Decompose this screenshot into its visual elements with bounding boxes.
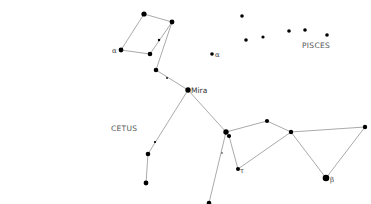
star-s3 bbox=[158, 39, 160, 41]
star-alpha-cetus bbox=[119, 48, 124, 53]
star-s2 bbox=[170, 20, 175, 25]
star-alpha-pisces bbox=[210, 52, 214, 56]
constellation-line bbox=[209, 132, 226, 203]
star-s9 bbox=[154, 141, 156, 143]
star-s6 bbox=[154, 68, 159, 73]
star-beta bbox=[323, 175, 330, 182]
constellation-line bbox=[326, 127, 365, 178]
star-s17 bbox=[265, 119, 269, 123]
constellation-line bbox=[291, 127, 365, 132]
constellation-line bbox=[238, 132, 291, 169]
star-s11 bbox=[144, 181, 149, 186]
mira-label: Mira bbox=[191, 86, 207, 95]
constellation-line bbox=[226, 121, 267, 132]
star-s19 bbox=[363, 125, 367, 129]
constellation-line bbox=[150, 22, 172, 54]
star-p2 bbox=[244, 38, 248, 42]
star-s18 bbox=[289, 130, 293, 134]
constellation-line bbox=[144, 14, 172, 22]
star-p3 bbox=[261, 35, 264, 38]
star-s1 bbox=[141, 11, 146, 16]
constellation-line bbox=[188, 90, 226, 132]
constellation-line bbox=[156, 22, 172, 70]
star-s10 bbox=[146, 152, 151, 157]
pisces-label: PISCES bbox=[302, 41, 330, 50]
star-s5 bbox=[148, 52, 153, 57]
star-s16 bbox=[207, 201, 212, 204]
tau-label: τ bbox=[240, 167, 244, 175]
star-s7 bbox=[166, 77, 168, 79]
constellation-line bbox=[148, 90, 188, 154]
constellation-line bbox=[291, 132, 326, 178]
star-p1 bbox=[240, 14, 244, 18]
alpha-cetus-label: α bbox=[112, 47, 117, 55]
star-s14 bbox=[221, 152, 222, 153]
alpha-pisces-label: α bbox=[215, 51, 220, 59]
cetus-label: CETUS bbox=[111, 124, 137, 133]
star-s12 bbox=[223, 129, 228, 134]
constellation-line bbox=[121, 50, 150, 54]
beta-label: β bbox=[330, 176, 334, 184]
constellation-line bbox=[229, 136, 238, 169]
constellation-line bbox=[121, 14, 144, 50]
star-s13 bbox=[227, 134, 231, 138]
constellation-line bbox=[156, 70, 188, 90]
constellation-line bbox=[146, 154, 148, 183]
star-mira bbox=[185, 87, 190, 92]
star-p4 bbox=[287, 29, 291, 33]
star-p6 bbox=[325, 33, 329, 37]
star-chart: CETUS PISCES Mira α α β τ bbox=[0, 0, 371, 204]
constellation-line bbox=[267, 121, 291, 132]
star-p5 bbox=[303, 28, 307, 32]
